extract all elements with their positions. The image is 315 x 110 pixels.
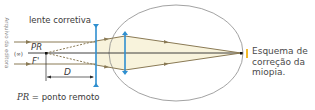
focus-label: F': [32, 56, 39, 66]
virtual-ray-top: [46, 41, 96, 53]
legend-text: = ponto remoto: [29, 92, 99, 102]
arrow-icon: [26, 62, 31, 66]
arrow-icon: [90, 76, 94, 79]
lens-end-icon: [122, 31, 128, 35]
lens-end-icon: [93, 83, 99, 87]
virtual-ray-bottom: [46, 53, 96, 65]
far-point-label: PR: [31, 42, 42, 52]
lens-end-icon: [93, 24, 99, 28]
lens-end-icon: [122, 71, 128, 75]
legend: PR = ponto remoto: [17, 92, 99, 102]
legend-symbol: PR: [17, 92, 29, 102]
retina-focus-point: [240, 52, 243, 55]
caption-marker: [246, 49, 248, 58]
figure-caption: Esquema de correção da miopia.: [252, 46, 314, 78]
corrective-lens-label: lente corretiva: [29, 15, 91, 25]
arrow-icon: [47, 76, 51, 79]
infinity-label: (∞): [14, 51, 23, 57]
distance-label: D: [64, 67, 71, 77]
